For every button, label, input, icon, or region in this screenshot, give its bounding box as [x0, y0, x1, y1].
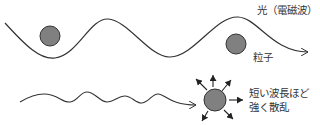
short-wave: [20, 92, 196, 105]
scatter-label-line1: 短い波長ほど: [249, 87, 309, 100]
particle-1: [40, 26, 60, 46]
scatter-label-line2: 強く散乱: [249, 101, 289, 114]
light-label: 光（電磁波）: [257, 4, 317, 17]
scattering-particle: [204, 89, 226, 111]
particle-2: [226, 34, 246, 54]
particle-label: 粒子: [253, 51, 273, 64]
